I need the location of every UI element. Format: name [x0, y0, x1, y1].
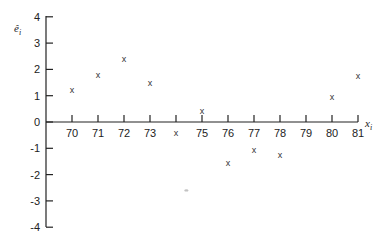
data-point-marker: x	[226, 158, 231, 168]
data-point-marker: x	[252, 145, 257, 155]
y-axis-title: êi	[14, 22, 21, 37]
data-point-marker: x	[122, 54, 127, 64]
x-tick-label: 79	[300, 127, 312, 139]
x-tick-label: 76	[222, 127, 234, 139]
y-tick-label: 2	[34, 63, 40, 75]
x-tick-label: 72	[118, 127, 130, 139]
data-point-marker: x	[70, 85, 75, 95]
x-tick-label: 70	[66, 127, 78, 139]
y-tick-label: -2	[30, 169, 40, 181]
y-tick-label: -4	[30, 221, 40, 233]
y-ticks: -4-3-2-101234	[30, 11, 53, 233]
x-tick-label: 80	[326, 127, 338, 139]
x-tick-label: 73	[144, 127, 156, 139]
data-point-marker: x	[148, 78, 153, 88]
x-tick-label: 75	[196, 127, 208, 139]
y-tick-label: 3	[34, 37, 40, 49]
x-tick-label: 71	[92, 127, 104, 139]
data-points: xxxxxxxxxxx	[70, 54, 361, 168]
x-axis-title: xi	[364, 117, 372, 132]
y-tick-label: 0	[34, 116, 40, 128]
data-point-marker: x	[278, 150, 283, 160]
x-tick-label: 81	[352, 127, 364, 139]
y-tick-label: -1	[30, 142, 40, 154]
data-point-marker: x	[174, 128, 179, 138]
data-point-marker: x	[96, 70, 101, 80]
data-point-marker: x	[330, 92, 335, 102]
data-point-marker: x	[356, 71, 361, 81]
data-point-marker: x	[200, 106, 205, 116]
y-tick-label: 4	[34, 11, 40, 23]
y-tick-label: 1	[34, 90, 40, 102]
annotations	[184, 189, 188, 191]
faint-mark	[184, 189, 188, 191]
x-tick-label: 78	[274, 127, 286, 139]
residual-scatter-plot: -4-3-2-101234 7071727375767778798081 xxx…	[0, 0, 389, 242]
y-tick-label: -3	[30, 195, 40, 207]
x-ticks: 7071727375767778798081	[66, 115, 364, 139]
x-tick-label: 77	[248, 127, 260, 139]
